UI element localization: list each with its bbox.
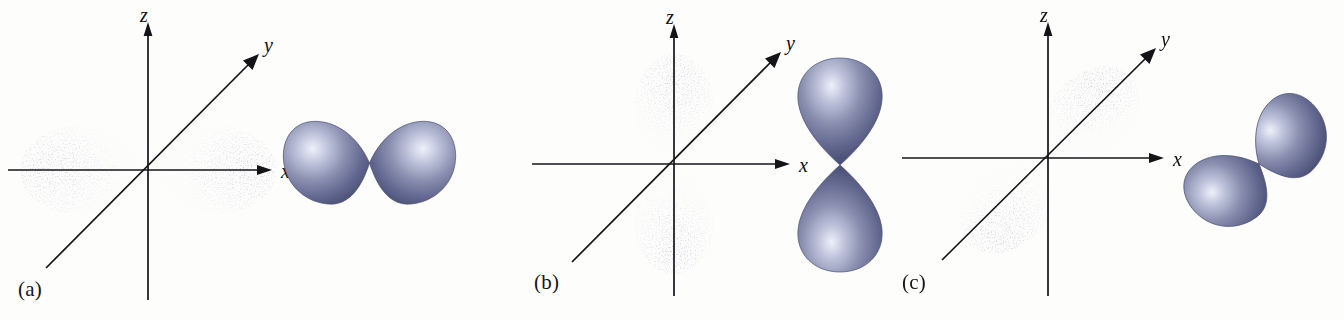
axis-label-z-b: z [665,6,674,28]
lobe-bottom-b [798,165,882,272]
panel-label-c: (c) [902,270,926,295]
panel-b: z y x [440,0,890,320]
axis-label-y-a: y [262,34,273,57]
x-arrowhead-c [1149,153,1164,163]
orbital-model-a [282,98,457,228]
y-axis-b [572,60,773,262]
panel-label-a: (a) [18,277,42,302]
orbital-model-c [1178,78,1340,250]
axis-label-z-a: z [139,4,148,26]
p-orbital-figure: z y x [0,0,1344,320]
lobe-left-a [283,121,369,204]
panel-a: z y x [0,0,450,320]
panel-label-b: (b) [534,270,559,295]
axis-label-z-c: z [1039,4,1048,26]
lobe-top-b [798,58,882,165]
panel-c: z y x [880,0,1344,320]
x-arrowhead-a [257,165,272,175]
axis-label-y-c: y [1159,28,1170,51]
